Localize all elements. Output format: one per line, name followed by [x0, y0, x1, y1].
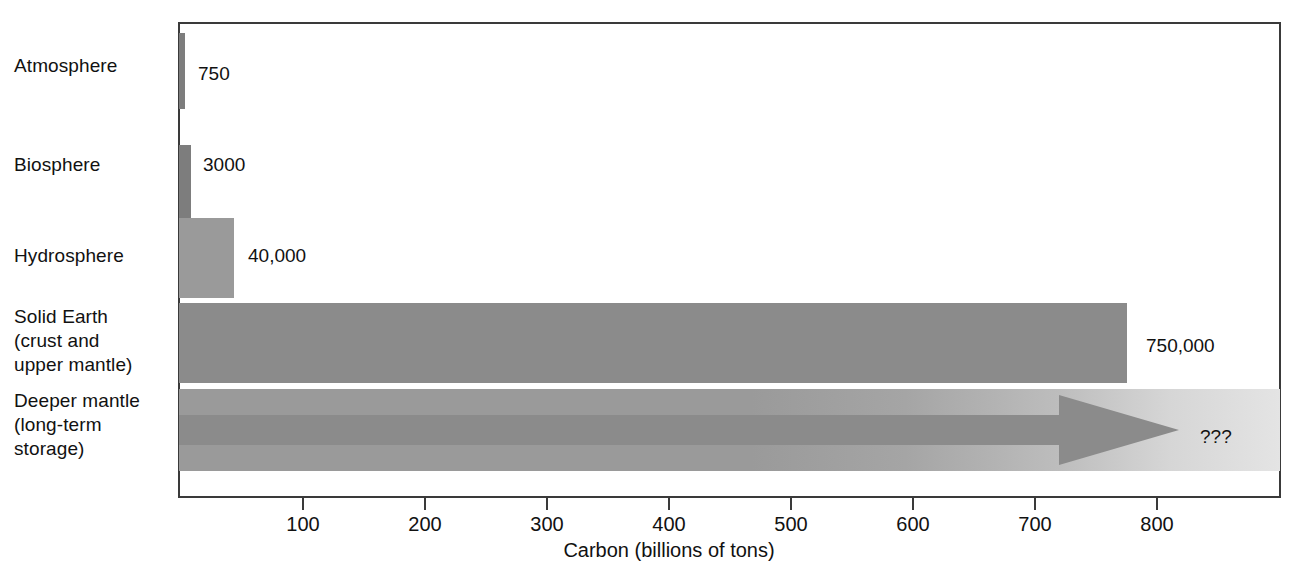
chart-figure: Atmosphere Biosphere Hydrosphere Solid E…	[0, 0, 1300, 570]
x-axis-title: Carbon (billions of tons)	[0, 538, 1300, 562]
value-label-atmosphere: 750	[198, 64, 230, 84]
category-label-solid-earth: Solid Earth (crust and upper mantle)	[14, 305, 174, 377]
x-tick-label-600: 600	[873, 512, 953, 536]
x-tick-label-800: 800	[1117, 512, 1197, 536]
x-tick-100	[302, 497, 304, 510]
bar-atmosphere	[179, 33, 185, 109]
x-tick-label-700: 700	[995, 512, 1075, 536]
x-tick-label-200: 200	[385, 512, 465, 536]
x-axis-title-text: Carbon (billions of tons)	[563, 539, 774, 561]
x-tick-200	[424, 497, 426, 510]
value-label-solid-earth: 750,000	[1146, 336, 1215, 356]
x-tick-800	[1156, 497, 1158, 510]
category-label-deeper-mantle: Deeper mantle (long-term storage)	[14, 389, 174, 461]
category-label-hydrosphere: Hydrosphere	[14, 244, 174, 268]
category-label-atmosphere: Atmosphere	[14, 54, 174, 78]
x-tick-label-100: 100	[263, 512, 343, 536]
value-label-hydrosphere: 40,000	[248, 246, 306, 266]
value-label-biosphere: 3000	[203, 155, 245, 175]
right-arrow-icon	[179, 389, 1179, 471]
value-label-deeper-mantle: ???	[1200, 427, 1232, 447]
x-tick-700	[1034, 497, 1036, 510]
bar-solid-earth	[179, 303, 1127, 383]
bar-hydrosphere	[179, 218, 234, 298]
x-tick-label-500: 500	[751, 512, 831, 536]
bar-biosphere	[179, 145, 191, 227]
x-tick-500	[790, 497, 792, 510]
x-tick-400	[668, 497, 670, 510]
x-tick-600	[912, 497, 914, 510]
x-axis-line	[178, 496, 1281, 498]
x-tick-label-300: 300	[507, 512, 587, 536]
x-tick-label-400: 400	[629, 512, 709, 536]
x-tick-300	[546, 497, 548, 510]
category-label-biosphere: Biosphere	[14, 153, 174, 177]
